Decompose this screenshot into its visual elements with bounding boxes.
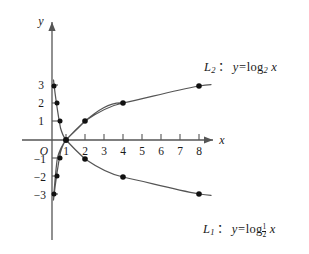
x-axis-arrowhead	[204, 136, 213, 143]
x-tick-label-8: 8	[196, 145, 202, 157]
l1-name-subscript: 1	[210, 227, 214, 237]
l1-log: log	[246, 222, 263, 236]
y-tick-label-2: 2	[38, 97, 44, 109]
origin-label: O	[40, 145, 49, 157]
l2-equals: =	[239, 60, 247, 74]
l1-arg: x	[270, 222, 276, 236]
curve-l1-log-base-half	[54, 80, 212, 195]
log-function-graph-figure: 1 2 3 4 5 6 7 8 3 2 1 −1 −2 −3 O x y	[0, 0, 309, 254]
l2-y: y	[233, 60, 239, 74]
l2-colon: ：	[216, 60, 233, 74]
x-axis-ticks	[66, 134, 199, 140]
x-tick-label-6: 6	[158, 145, 164, 157]
data-point	[52, 84, 57, 89]
y-tick-label-1: 1	[38, 115, 44, 127]
x-tick-label-3: 3	[101, 145, 107, 157]
y-axis-arrowhead	[48, 22, 55, 31]
curve-l2-log-base-2	[54, 85, 212, 200]
data-point	[196, 83, 202, 89]
y-tick-label-3: 3	[38, 79, 44, 91]
curve-label-l1: L1：y=log12 x	[203, 218, 275, 238]
data-point	[82, 118, 88, 124]
x-tick-label-5: 5	[139, 145, 145, 157]
data-point	[120, 100, 126, 106]
x-tick-label-2: 2	[82, 145, 88, 157]
l2-log-base: 2	[263, 65, 267, 75]
x-axis-tick-labels: 1 2 3 4 5 6 7 8	[63, 145, 202, 157]
data-point	[120, 174, 126, 180]
x-tick-label-7: 7	[177, 145, 183, 157]
l2-arg: x	[271, 60, 277, 74]
data-point	[196, 191, 202, 197]
l2-log: log	[247, 60, 264, 74]
l1-log-base-fraction: 12	[262, 224, 266, 239]
x-tick-label-1: 1	[63, 145, 69, 157]
l1-y: y	[232, 222, 238, 236]
x-tick-label-4: 4	[120, 145, 126, 157]
y-tick-label-neg3: −3	[34, 189, 46, 201]
y-tick-label-neg2: −2	[34, 171, 46, 183]
data-point	[55, 101, 60, 106]
l1-equals: =	[238, 222, 246, 236]
l1-base-denominator: 2	[262, 231, 266, 239]
l2-name-subscript: 2	[211, 65, 215, 75]
data-point	[55, 174, 60, 179]
data-point	[52, 192, 57, 197]
data-point	[63, 137, 69, 143]
data-point	[82, 156, 88, 162]
curve-label-l2: L2：y=log2 x	[204, 56, 277, 75]
y-axis-label: y	[37, 14, 44, 28]
axes-group	[22, 22, 213, 240]
data-point	[58, 156, 63, 161]
coordinate-plot-svg: 1 2 3 4 5 6 7 8 3 2 1 −1 −2 −3 O x y	[0, 0, 309, 254]
data-point	[58, 119, 63, 124]
x-axis-label: x	[218, 133, 225, 147]
l1-colon: ：	[215, 222, 232, 236]
